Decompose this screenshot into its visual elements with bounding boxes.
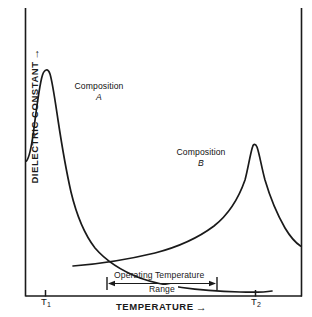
annotation-composition-b: Composition B (172, 148, 230, 168)
dielectric-constant-vs-temperature-chart: DIELECTRIC CONSTANT→ TEMPERATURE→ Compos… (0, 0, 312, 317)
composition-a-title: Composition (75, 81, 124, 91)
operating-range-label-line1: Operating Temperature (114, 271, 204, 281)
x-tick-label-t1-subscript: 1 (47, 301, 51, 308)
y-axis-arrow-icon: → (29, 48, 41, 59)
x-axis-title: TEMPERATURE→ (116, 301, 207, 313)
x-axis-arrow-icon: → (196, 301, 208, 313)
axis-lines (26, 8, 303, 297)
x-axis-title-text: TEMPERATURE (116, 301, 194, 312)
y-axis-title-text: DIELECTRIC CONSTANT (29, 61, 40, 183)
composition-a-name: A (70, 93, 128, 103)
annotation-composition-a: Composition A (70, 82, 128, 102)
composition-b-title: Composition (177, 147, 226, 157)
curve-composition-a (27, 70, 273, 292)
y-axis-title: DIELECTRIC CONSTANT→ (24, 26, 40, 206)
range-arrow-head-right (209, 281, 216, 286)
operating-range-label-line2: Range (146, 285, 178, 295)
range-arrow-head-left (108, 281, 115, 286)
x-tick-label-t2: T2 (251, 297, 261, 309)
x-tick-label-t1: T1 (41, 297, 51, 309)
x-tick-label-t2-subscript: 2 (257, 301, 261, 308)
composition-b-name: B (172, 159, 230, 169)
